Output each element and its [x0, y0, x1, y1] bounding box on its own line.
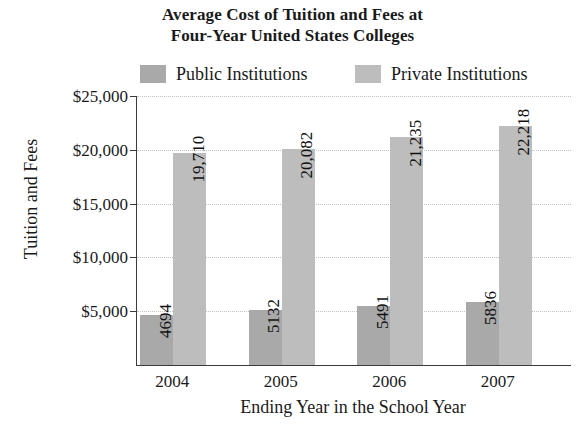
chart-legend: Public Institutions Private Institutions	[136, 61, 576, 87]
bar-public-2006: 5491	[357, 306, 390, 365]
plot-area: $25,000$20,000$15,000$10,000$5,000469419…	[136, 96, 571, 366]
x-axis-title: Ending Year in the School Year	[136, 397, 570, 418]
y-axis-tick-label: $20,000	[73, 141, 128, 158]
x-axis-tick-label-2005: 2005	[264, 372, 298, 391]
bar-value-label: 5836	[482, 291, 499, 325]
y-axis-tick	[130, 257, 137, 258]
bar-value-label: 19,710	[190, 136, 207, 183]
bar-public-2007: 5836	[466, 302, 499, 365]
y-axis-tick-label: $10,000	[73, 249, 128, 266]
legend-label-private: Private Institutions	[391, 64, 528, 84]
bar-value-label: 4694	[157, 304, 174, 338]
bar-public-2005: 5132	[249, 310, 282, 365]
y-axis-title: Tuition and Fees	[21, 99, 41, 299]
chart-title-line-2: Four-Year United States Colleges	[0, 25, 585, 46]
x-axis-tick-label-2006: 2006	[372, 372, 406, 391]
bar-value-label: 20,082	[298, 132, 315, 179]
bar-value-label: 5491	[374, 295, 391, 329]
y-axis-tick	[130, 311, 137, 312]
y-axis-tick	[130, 150, 137, 151]
legend-item-public: Public Institutions	[140, 61, 308, 87]
bar-private-2006: 21,235	[390, 137, 423, 365]
y-axis-tick-label: $15,000	[73, 195, 128, 212]
chart-title: Average Cost of Tuition and Fees at Four…	[0, 4, 585, 46]
y-axis-tick-label: $5,000	[81, 303, 128, 320]
bar-public-2004: 4694	[140, 315, 173, 366]
bar-private-2005: 20,082	[282, 149, 315, 365]
legend-swatch-private-icon	[355, 65, 381, 83]
bar-value-label: 22,218	[515, 109, 532, 156]
legend-swatch-public-icon	[140, 65, 166, 83]
bar-value-label: 5132	[265, 299, 282, 333]
bar-chart: Average Cost of Tuition and Fees at Four…	[0, 0, 585, 432]
gridline	[137, 96, 571, 97]
x-axis-tick-label-2004: 2004	[155, 372, 189, 391]
y-axis-tick-label: $25,000	[73, 88, 128, 105]
bar-private-2007: 22,218	[499, 126, 532, 365]
x-axis-tick-label-2007: 2007	[481, 372, 515, 391]
chart-title-line-1: Average Cost of Tuition and Fees at	[162, 5, 423, 24]
legend-label-public: Public Institutions	[176, 64, 308, 84]
bar-value-label: 21,235	[407, 119, 424, 166]
y-axis-tick	[130, 96, 137, 97]
legend-item-private: Private Institutions	[355, 61, 528, 87]
y-axis-tick	[130, 204, 137, 205]
bar-private-2004: 19,710	[173, 153, 206, 365]
